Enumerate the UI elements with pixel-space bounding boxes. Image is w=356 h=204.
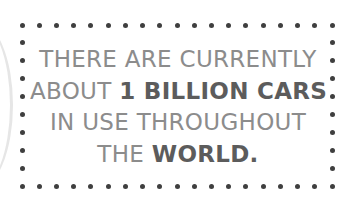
background-edge-curve: [0, 20, 13, 190]
border-dot: [330, 23, 335, 28]
fact-line-4: THE WORLD.: [30, 139, 326, 171]
border-dot: [243, 23, 248, 28]
fact-text: IN USE THROUGHOUT: [50, 109, 306, 135]
border-dot: [20, 40, 25, 45]
border-dot: [330, 94, 335, 99]
border-dot: [20, 148, 25, 153]
border-dot: [88, 184, 93, 189]
border-dot: [140, 23, 145, 28]
border-dot: [192, 184, 197, 189]
border-dot: [278, 23, 283, 28]
fact-line-1: THERE ARE CURRENTLY: [30, 44, 326, 76]
border-dot: [295, 23, 300, 28]
border-dot: [123, 23, 128, 28]
border-dot: [71, 184, 76, 189]
fact-text: THE: [97, 141, 151, 167]
fact-line-2: ABOUT 1 BILLION CARS: [30, 76, 326, 108]
fact-text: ABOUT: [30, 78, 119, 104]
border-dot: [106, 23, 111, 28]
border-dot: [330, 130, 335, 135]
border-dot: [312, 184, 317, 189]
border-dot: [278, 184, 283, 189]
border-dot: [20, 94, 25, 99]
border-dot: [175, 23, 180, 28]
fact-emphasis: 1 BILLION CARS: [119, 78, 327, 104]
border-dot: [71, 23, 76, 28]
border-dot: [330, 148, 335, 153]
border-dot: [226, 23, 231, 28]
border-dot: [20, 166, 25, 171]
border-dot: [243, 184, 248, 189]
border-dot: [88, 23, 93, 28]
fact-card-text: THERE ARE CURRENTLY ABOUT 1 BILLION CARS…: [30, 44, 326, 170]
border-dot: [157, 184, 162, 189]
border-dot: [209, 184, 214, 189]
border-dot: [295, 184, 300, 189]
border-dot: [54, 23, 59, 28]
border-dot: [330, 166, 335, 171]
border-dot: [37, 23, 42, 28]
border-dot: [312, 23, 317, 28]
fact-line-3: IN USE THROUGHOUT: [30, 107, 326, 139]
border-dot: [20, 76, 25, 81]
border-dot: [20, 112, 25, 117]
border-dot: [330, 58, 335, 63]
border-dot: [140, 184, 145, 189]
border-dot: [106, 184, 111, 189]
border-dot: [209, 23, 214, 28]
border-dot: [330, 112, 335, 117]
border-dot: [54, 184, 59, 189]
border-dot: [20, 184, 25, 189]
border-dot: [330, 76, 335, 81]
border-dot: [330, 40, 335, 45]
border-dot: [226, 184, 231, 189]
border-dot: [261, 23, 266, 28]
border-dot: [123, 184, 128, 189]
border-dot: [20, 23, 25, 28]
border-dot: [261, 184, 266, 189]
fact-emphasis: WORLD.: [152, 141, 259, 167]
border-dot: [37, 184, 42, 189]
border-dot: [175, 184, 180, 189]
border-dot: [157, 23, 162, 28]
border-dot: [20, 130, 25, 135]
border-dot: [330, 184, 335, 189]
fact-text: THERE ARE CURRENTLY: [39, 46, 316, 72]
border-dot: [20, 58, 25, 63]
border-dot: [192, 23, 197, 28]
